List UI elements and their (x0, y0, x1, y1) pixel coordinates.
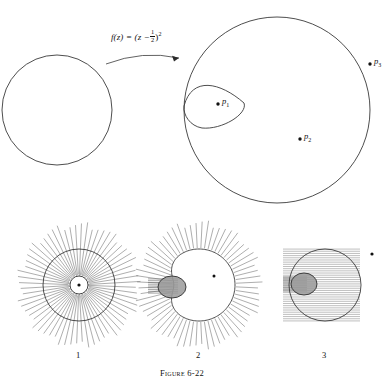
panel-1-ray (80, 294, 83, 342)
panel-number-2: 2 (196, 351, 200, 360)
point-label-p2: p2 (304, 132, 311, 143)
panel-1-ray (29, 291, 70, 316)
figure-canvas (0, 0, 389, 379)
panel-2-dot (213, 275, 216, 278)
panel-1-ray (65, 294, 77, 345)
panel-2-ray (190, 322, 194, 347)
panel-2-ray (236, 282, 262, 283)
panel-2-ray (236, 276, 261, 280)
formula-exponent: 2 (158, 31, 161, 37)
panel-1 (18, 222, 141, 347)
panel-2-ray (172, 228, 183, 252)
mapping-arrow (106, 55, 179, 64)
panel-2-ray (236, 290, 259, 293)
panel-2-ray (232, 257, 257, 269)
panel-2-ray (196, 322, 197, 345)
panel-2-ray (224, 241, 239, 257)
point-label-sub-p2: 2 (308, 137, 311, 143)
point-label-sub-p1: 1 (226, 102, 229, 108)
panel-1-ray (89, 286, 137, 293)
panel-1-ray (65, 230, 77, 276)
panel-2-ray (215, 318, 225, 339)
panel-3 (283, 249, 374, 321)
panel-1-ray (26, 261, 71, 282)
panel-2-ray (190, 225, 193, 248)
image-outer-curve (184, 17, 370, 203)
panel-3-loop (291, 273, 317, 295)
panel-1-center-dot (77, 283, 80, 286)
panel-3-dot (370, 252, 373, 255)
point-p2 (298, 137, 301, 140)
panel-2-ray (236, 287, 258, 288)
formula-fz: f(z) (111, 32, 123, 42)
panel-2-ray (204, 322, 208, 350)
figure-6-22: f(z)=(z −12)2 p1p2p3 1 2 3 Figure 6-22 (0, 0, 389, 379)
figure-caption: Figure 6-22 (160, 369, 204, 378)
panel-2-ray (201, 322, 202, 344)
mapping-formula: f(z)=(z −12)2 (111, 29, 162, 43)
formula-equals: = (126, 32, 131, 42)
point-p1 (216, 102, 219, 105)
source-circle (2, 55, 112, 165)
point-label-sub-p3: 3 (378, 62, 381, 68)
panel-2-loop (158, 276, 186, 298)
panel-number-3: 3 (322, 351, 326, 360)
panel-1-ray (77, 295, 79, 344)
panel-1-ray (88, 289, 136, 311)
panel-2-ray (218, 317, 229, 336)
image-inner-loop (184, 85, 245, 128)
panel-2-ray (168, 316, 180, 336)
panel-2-ray (177, 320, 186, 346)
top-diagram-group (2, 17, 372, 203)
point-label-p3: p3 (374, 57, 381, 68)
panel-2-ray (229, 307, 248, 321)
panel-2-ray (231, 304, 250, 315)
panel-1-ray (88, 290, 128, 313)
point-label-p1: p1 (222, 97, 229, 108)
panel-2-ray (208, 228, 213, 249)
panel-1-ray (88, 270, 135, 282)
formula-open: (z − (135, 32, 150, 42)
panel-number-1: 1 (76, 351, 80, 360)
panel-2-ray (204, 221, 208, 249)
panel-1-ray (88, 281, 141, 284)
panel-2-ray (167, 232, 180, 254)
panel-2-ray (232, 301, 257, 313)
panel-1-ray (83, 231, 104, 277)
panel-2-ray (196, 223, 197, 248)
panel-2 (136, 221, 263, 350)
panel-2-ray (201, 222, 202, 248)
point-p3 (368, 62, 371, 65)
panel-1-ray (19, 283, 68, 285)
panel-2-ray (185, 228, 190, 249)
panel-2-ray (234, 265, 255, 272)
mapping-arrowhead (172, 56, 179, 62)
panel-2-ray (174, 318, 183, 338)
panel-2-ray (215, 229, 226, 252)
panel-2-ray (177, 224, 186, 250)
panel-1-ray (21, 286, 70, 289)
panels-group (18, 221, 374, 350)
